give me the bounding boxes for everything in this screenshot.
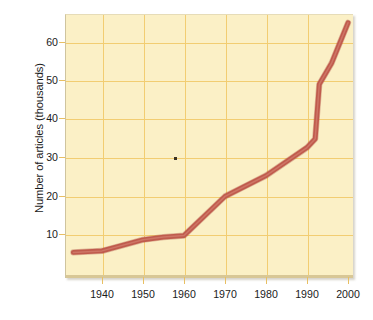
gridline-vertical [308,15,309,278]
plot-area [65,14,353,278]
chart-figure: Number of articles (thousands) 60 50 40 … [0,0,373,320]
gridline-horizontal [66,197,353,198]
x-tick-mark-1940 [102,277,103,284]
x-tick-mark-1980 [266,277,267,284]
x-tick-label-2000: 2000 [325,288,371,300]
x-tick-mark-2000 [348,277,349,284]
x-tick-label-1950: 1950 [120,288,166,300]
x-tick-label-1940: 1940 [79,288,125,300]
gridline-vertical [144,15,145,278]
gridline-horizontal [66,158,353,159]
x-tick-label-1980: 1980 [243,288,289,300]
y-tick-label-30: 30 [18,151,58,163]
x-tick-label-1990: 1990 [284,288,330,300]
gridline-vertical [267,15,268,278]
gridline-horizontal [66,81,353,82]
y-tick-label-20: 20 [18,190,58,202]
y-tick-label-10: 10 [18,228,58,240]
gridline-horizontal [66,235,353,236]
gridline-vertical [226,15,227,278]
gridline-horizontal [66,119,353,120]
y-tick-label-40: 40 [18,112,58,124]
x-tick-mark-1990 [307,277,308,284]
gridline-vertical [103,15,104,278]
x-tick-mark-1960 [184,277,185,284]
image-speck-artifact [174,157,177,160]
y-axis-title: Number of articles (thousands) [33,18,45,258]
y-tick-label-60: 60 [18,36,58,48]
gridline-vertical [185,15,186,278]
gridline-horizontal [66,43,353,44]
x-tick-mark-1950 [143,277,144,284]
x-tick-label-1970: 1970 [202,288,248,300]
y-tick-label-50: 50 [18,74,58,86]
x-tick-label-1960: 1960 [161,288,207,300]
x-tick-mark-1970 [225,277,226,284]
